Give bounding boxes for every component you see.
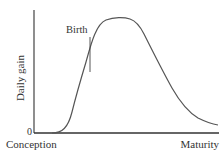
y-axis-label: Daily gain [14,54,26,101]
x-end-label: Maturity [181,138,220,150]
birth-label: Birth [66,24,88,35]
chart-svg: Birth 0 Conception Maturity Daily gain [0,0,224,155]
y-zero-label: 0 [27,126,32,137]
x-start-label: Conception [6,138,57,150]
growth-chart: Birth 0 Conception Maturity Daily gain [0,0,224,155]
